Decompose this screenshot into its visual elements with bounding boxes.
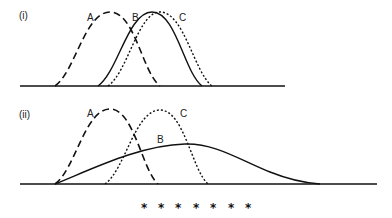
separator-star: * bbox=[175, 201, 182, 215]
panel-ii-label: (ii) bbox=[19, 109, 30, 120]
separator-star: * bbox=[158, 201, 165, 215]
section-separator: * * * * * * * bbox=[141, 201, 252, 215]
panel-ii-label-b: B bbox=[157, 134, 164, 145]
panel-i-label-a: A bbox=[87, 12, 94, 23]
separator-star: * bbox=[245, 201, 252, 215]
panel-ii: (ii) A B C bbox=[19, 108, 377, 184]
panel-i-label-b: B bbox=[132, 12, 139, 23]
separator-star: * bbox=[193, 201, 200, 215]
panel-i: (i) A B C bbox=[19, 10, 285, 86]
panel-i-curve-c bbox=[108, 12, 212, 86]
separator-star: * bbox=[210, 201, 217, 215]
distribution-diagram: (i) A B C (ii) A B C * * * * * * * bbox=[0, 0, 392, 218]
panel-ii-label-a: A bbox=[87, 108, 94, 119]
panel-ii-curve-a bbox=[55, 109, 158, 184]
panel-i-label: (i) bbox=[19, 10, 28, 21]
separator-star: * bbox=[141, 201, 148, 215]
panel-i-curve-b bbox=[98, 12, 202, 86]
panel-ii-curve-b bbox=[55, 144, 320, 184]
separator-star: * bbox=[228, 201, 235, 215]
panel-i-label-c: C bbox=[179, 12, 186, 23]
panel-ii-label-c: C bbox=[180, 108, 187, 119]
